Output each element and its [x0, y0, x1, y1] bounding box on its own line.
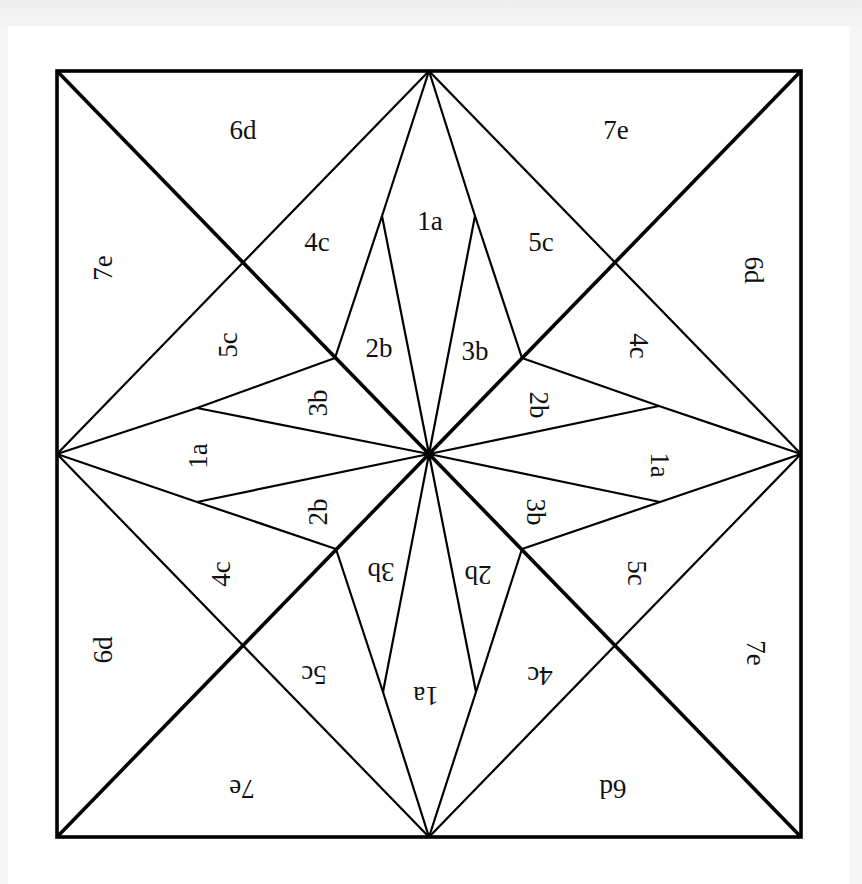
bottom-kite-right-edge	[429, 454, 476, 837]
label-top-c-right: 5c	[528, 227, 554, 257]
label-left-c-upper: 5c	[213, 332, 243, 358]
label-bottom-c-left: 5c	[301, 660, 327, 690]
label-bottom-kite: 1a	[413, 681, 439, 711]
label-top-corner-right: 7e	[603, 115, 629, 145]
label-left-b-lower: 2b	[303, 499, 333, 526]
label-right-corner-upper: 6d	[739, 257, 769, 285]
bottom-kite-left-edge	[383, 454, 429, 837]
right-kite-lower-edge	[429, 454, 801, 502]
label-left-corner-upper: 7e	[88, 255, 118, 281]
top-kite-left-edge	[382, 71, 429, 454]
left-kite-upper-edge	[57, 408, 429, 454]
label-top-c-left: 4c	[304, 227, 330, 257]
top-kite-right-edge	[429, 71, 475, 454]
center-point	[426, 451, 433, 458]
quilt-block-diagram: 6d 7e 1a 4c 5c 2b 3b 7e 5c 3b 1a 2b 4c 6…	[0, 0, 862, 884]
right-kite-upper-edge	[429, 406, 801, 454]
label-right-corner-lower: 7e	[741, 640, 771, 666]
label-right-kite: 1a	[645, 452, 675, 478]
label-bottom-corner-right: 6d	[599, 774, 627, 804]
label-right-c-lower: 5c	[622, 560, 652, 586]
label-top-b-right: 3b	[462, 336, 489, 366]
label-right-b-upper: 2b	[524, 392, 554, 419]
labels-top: 6d 7e 1a 4c 5c 2b 3b	[230, 115, 629, 366]
label-bottom-corner-left: 7e	[229, 774, 255, 804]
left-kite-lower-edge	[57, 454, 429, 502]
labels-right: 6d 4c 2b 1a 3b 5c 7e	[521, 257, 771, 666]
label-bottom-b-right: 2b	[465, 560, 492, 590]
label-left-corner-lower: 6d	[88, 636, 118, 664]
label-bottom-c-right: 4c	[527, 661, 553, 691]
label-top-kite: 1a	[417, 206, 443, 236]
label-top-corner-left: 6d	[230, 115, 258, 145]
label-top-b-left: 2b	[366, 333, 393, 363]
label-left-c-lower: 4c	[206, 561, 236, 587]
label-bottom-b-left: 3b	[368, 557, 395, 587]
label-right-b-lower: 3b	[521, 499, 551, 526]
label-left-b-upper: 3b	[303, 390, 333, 417]
label-right-c-upper: 4c	[624, 333, 654, 359]
label-left-kite: 1a	[183, 443, 213, 469]
